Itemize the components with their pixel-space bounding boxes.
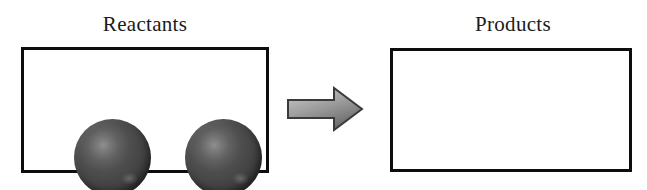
reactant-sphere-2 — [185, 119, 262, 190]
reactants-box — [21, 47, 269, 173]
reactants-label: Reactants — [103, 12, 187, 37]
reactant-sphere-1 — [74, 119, 151, 190]
products-box — [390, 48, 632, 172]
reaction-arrow-icon — [286, 85, 364, 133]
products-label: Products — [475, 12, 551, 37]
reaction-diagram: Reactants Products — [0, 0, 647, 190]
